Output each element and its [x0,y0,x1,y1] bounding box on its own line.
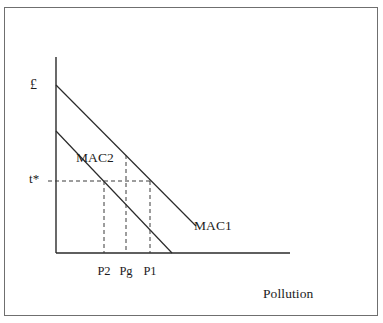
figure-canvas: £ t* MAC2 MAC1 P2 Pg P1 Pollution [0,0,383,323]
x-tick-label-pg: Pg [114,264,138,279]
mac2-curve-label: MAC2 [76,151,114,165]
mac1-curve-label: MAC1 [194,219,232,233]
diagram-drawing [0,0,383,323]
mac2-curve [56,131,172,253]
x-axis-label: Pollution [263,287,313,301]
x-tick-label-p1: P1 [138,264,162,279]
x-tick-label-p2: P2 [92,264,116,279]
y-axis-label: £ [30,78,37,92]
tax-level-label: t* [29,172,39,185]
